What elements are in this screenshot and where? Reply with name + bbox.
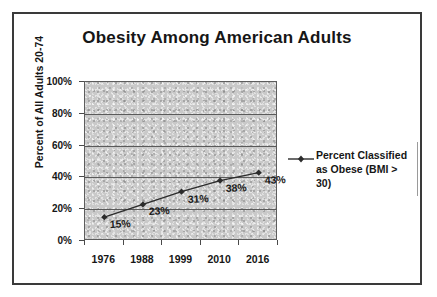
- data-point-marker: [217, 177, 223, 183]
- data-point-label: 23%: [148, 204, 170, 217]
- y-axis-tick-label: 80%: [36, 107, 72, 118]
- x-axis-tick-label: 2016: [236, 253, 280, 265]
- data-point-marker: [140, 201, 146, 207]
- y-axis-tick-label: 60%: [36, 139, 72, 150]
- x-axis-tick-mark: [277, 240, 278, 245]
- legend-label-line2: as Obese (BMI > 30): [316, 162, 414, 190]
- legend-text: Percent Classified as Obese (BMI > 30): [316, 148, 414, 190]
- plot-area: 15%23%31%38%43%: [84, 81, 277, 240]
- chart-legend: Percent Classified as Obese (BMI > 30): [286, 142, 418, 196]
- legend-label-line1: Percent Classified: [316, 148, 414, 162]
- x-axis-tick-mark: [123, 240, 124, 245]
- y-axis-tick-label: 40%: [36, 171, 72, 182]
- data-point-label: 43%: [264, 173, 286, 186]
- x-axis-tick-label: 1976: [81, 253, 125, 265]
- chart-title: Obesity Among American Adults: [14, 28, 420, 48]
- legend-marker-icon: [288, 154, 314, 164]
- x-axis-tick-mark: [200, 240, 201, 245]
- x-axis-tick-mark: [238, 240, 239, 245]
- x-axis-tick-label: 1988: [120, 253, 164, 265]
- x-axis-tick-label: 1999: [159, 253, 203, 265]
- data-point-marker: [178, 189, 184, 195]
- data-point-marker: [256, 170, 262, 176]
- y-axis-title: Percent of All Adults 20-74: [33, 17, 45, 187]
- y-axis-tick-label: 100%: [36, 76, 72, 87]
- data-point-label: 38%: [225, 180, 247, 193]
- y-axis-tick-label: 0%: [36, 235, 72, 246]
- y-axis-tick-label: 20%: [36, 203, 72, 214]
- data-point-label: 31%: [187, 192, 209, 205]
- chart-frame: Obesity Among American Adults Percent of…: [12, 12, 422, 285]
- data-point-marker: [101, 214, 107, 220]
- x-axis-tick-mark: [161, 240, 162, 245]
- x-axis-tick-mark: [84, 240, 85, 245]
- data-point-label: 15%: [110, 217, 132, 230]
- x-axis-tick-label: 2010: [197, 253, 241, 265]
- series-polyline: [104, 173, 258, 218]
